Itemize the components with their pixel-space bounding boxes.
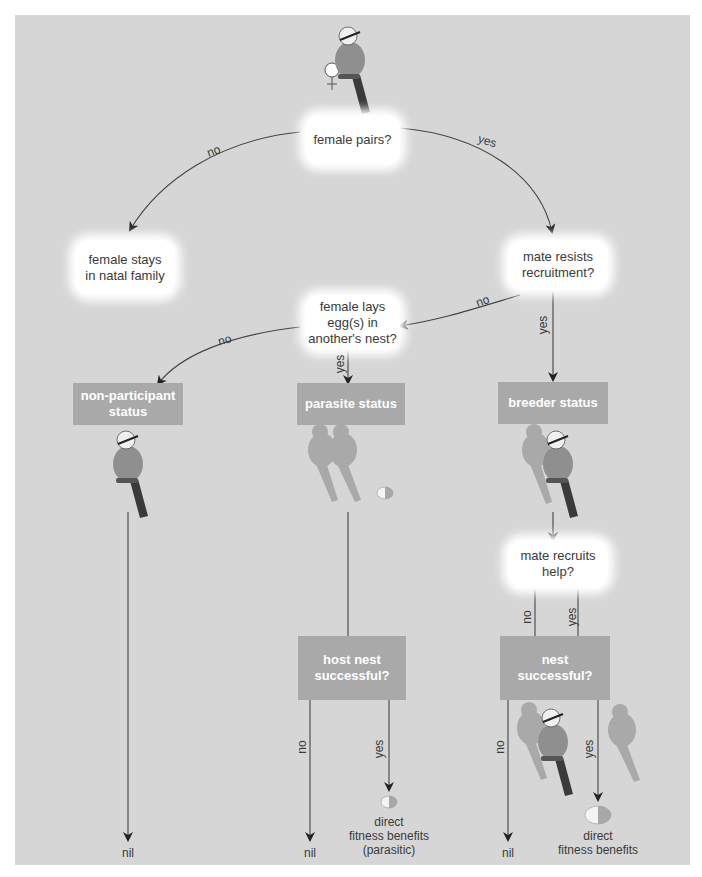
question-text: mate resists recruitment? (522, 249, 594, 281)
question-text: female lays egg(s) in another's nest? (308, 299, 397, 347)
result-nil-left: nil (113, 846, 143, 860)
question-text: mate recruits help? (520, 548, 595, 580)
outcome-text: female stays in natal family (85, 252, 164, 284)
status-text: breeder status (508, 395, 598, 411)
edge-label-host-yes: yes (372, 740, 386, 759)
result-direct-benefits: direct fitness benefits (543, 829, 653, 857)
status-breeder: breeder status (498, 382, 608, 424)
question-female-pairs: female pairs? (305, 115, 400, 165)
egg-icon (381, 796, 397, 808)
result-nil-middle: nil (295, 846, 325, 860)
status-text: non-participant status (81, 388, 176, 420)
egg-icon (585, 806, 611, 824)
status-non-participant: non-participant status (73, 383, 183, 425)
status-parasite: parasite status (297, 383, 405, 425)
question-mate-resists: mate resists recruitment? (508, 240, 608, 290)
shadow-birds-icon (308, 424, 640, 782)
result-parasitic-benefits: direct fitness benefits (parasitic) (334, 815, 444, 857)
status-text: nest successful? (517, 652, 592, 684)
edge-label-nest-no: no (493, 740, 507, 753)
result-nil-right: nil (493, 846, 523, 860)
egg-icon (377, 487, 393, 499)
edge-label-resists-yes: yes (536, 316, 550, 335)
question-female-lays: female lays egg(s) in another's nest? (305, 295, 400, 350)
outcome-female-stays: female stays in natal family (75, 240, 175, 295)
edge-label-recruits-yes: yes (565, 608, 579, 627)
edge-label-lays-yes: yes (333, 355, 347, 374)
question-mate-recruits: mate recruits help? (508, 540, 608, 588)
question-nest-successful: nest successful? (500, 636, 610, 700)
question-host-nest-successful: host nest successful? (298, 636, 406, 700)
edge-label-recruits-no: no (520, 610, 534, 623)
question-text: female pairs? (313, 132, 391, 148)
status-text: parasite status (305, 396, 397, 412)
edge-label-nest-yes: yes (582, 740, 596, 759)
status-text: host nest successful? (314, 652, 389, 684)
edge-label-host-no: no (295, 740, 309, 753)
